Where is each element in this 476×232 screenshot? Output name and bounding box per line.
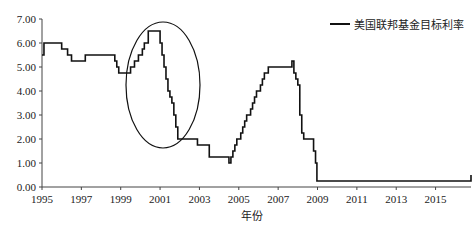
y-tick-label: 6.00: [17, 37, 37, 49]
y-tick-label: 3.00: [17, 109, 37, 121]
y-tick-label: 4.00: [17, 85, 37, 97]
x-tick-label: 1997: [70, 193, 93, 205]
x-axis-label: 年份: [241, 207, 263, 223]
legend: 美国联邦基金目标利率: [330, 16, 464, 32]
y-tick-label: 1.00: [17, 157, 37, 169]
x-tick-label: 2015: [425, 193, 448, 205]
chart-area: 0.001.002.003.004.005.006.007.0019951997…: [0, 0, 476, 232]
x-tick-label: 2013: [385, 193, 408, 205]
x-tick-label: 1999: [110, 193, 133, 205]
y-tick-label: 7.00: [17, 13, 37, 25]
legend-label: 美国联邦基金目标利率: [354, 16, 464, 32]
x-tick-label: 2003: [188, 193, 211, 205]
axes: 0.001.002.003.004.005.006.007.0019951997…: [17, 13, 471, 205]
x-tick-label: 2007: [267, 193, 290, 205]
x-tick-label: 2001: [149, 193, 171, 205]
x-tick-label: 2011: [346, 193, 368, 205]
x-tick-label: 1995: [31, 193, 54, 205]
fed-funds-rate-line: [42, 31, 471, 181]
y-tick-label: 5.00: [17, 61, 37, 73]
x-tick-label: 2005: [228, 193, 251, 205]
x-tick-label: 2009: [307, 193, 330, 205]
y-tick-label: 0.00: [17, 181, 37, 193]
y-tick-label: 2.00: [17, 133, 37, 145]
legend-line-swatch: [330, 23, 350, 25]
highlight-ellipse: [126, 22, 200, 148]
